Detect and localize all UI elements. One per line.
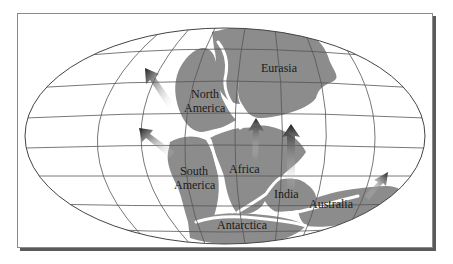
label-north-america-line2: America (184, 101, 226, 115)
label-south-america-line1: South (180, 164, 208, 178)
label-south-america-line2: America (174, 178, 216, 192)
label-africa: Africa (229, 162, 260, 176)
label-australia: Australia (309, 197, 354, 211)
label-eurasia: Eurasia (261, 61, 298, 75)
label-india: India (274, 187, 299, 201)
label-north-america-line1: North (191, 87, 219, 101)
label-antarctica: Antarctica (217, 218, 268, 232)
pangaea-map: Eurasia North America South America Afri… (0, 0, 453, 264)
